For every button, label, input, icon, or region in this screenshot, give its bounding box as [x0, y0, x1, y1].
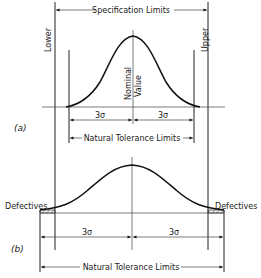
upper-label: Upper — [201, 27, 210, 52]
defectives-label-right: Defectives — [215, 202, 257, 211]
value-label: Value — [134, 75, 143, 97]
sigma-right-a: 3σ — [158, 111, 168, 120]
spec-limits-dimension: Specification Limits — [56, 6, 207, 15]
sigma-left-a: 3σ — [95, 111, 105, 120]
panel-a-tag: (a) — [14, 123, 27, 133]
natural-limits-label-a: Natural Tolerance Limits — [84, 134, 181, 143]
natural-limits-label-b: Natural Tolerance Limits — [83, 263, 180, 272]
sigma-left-b: 3σ — [82, 228, 92, 237]
panel-b: Defectives Defectives 3σ 3σ Natural Tole… — [5, 148, 257, 272]
defectives-label-left: Defectives — [5, 202, 47, 211]
tolerance-diagram: Specification Limits Lower Upper Nominal… — [0, 0, 261, 278]
panel-b-tag: (b) — [11, 244, 24, 254]
sigma-right-b: 3σ — [169, 228, 179, 237]
lower-label: Lower — [44, 27, 53, 52]
nominal-label: Nominal — [124, 67, 133, 100]
spec-limits-label: Specification Limits — [92, 6, 170, 15]
